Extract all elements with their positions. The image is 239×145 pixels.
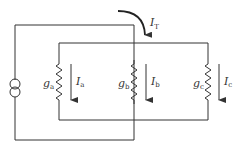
resistor-ga-icon — [56, 60, 62, 104]
label-ga: ga — [43, 77, 54, 91]
label-ib: Ib — [150, 75, 160, 89]
circuit-diagram: IT ga Ia gb Ib gc Ic — [0, 0, 239, 145]
label-gb: gb — [118, 77, 130, 91]
current-source-icon — [10, 79, 20, 97]
label-ic: Ic — [223, 75, 232, 89]
outer-loop-wire — [15, 25, 134, 140]
label-ia: Ia — [75, 75, 85, 89]
label-it: IT — [149, 16, 159, 31]
resistor-gc-icon — [205, 60, 211, 104]
current-arrow-it-icon — [118, 11, 145, 35]
label-gc: gc — [193, 77, 204, 91]
